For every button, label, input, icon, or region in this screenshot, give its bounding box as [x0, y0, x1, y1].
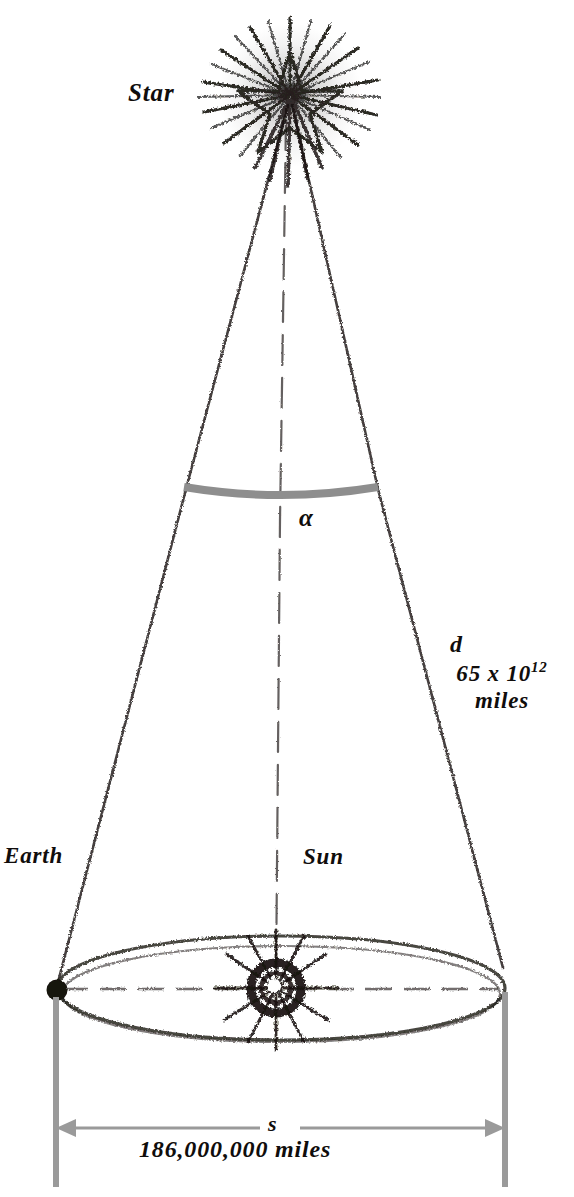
- distance-annotation: d 65 x 1012 miles: [440, 632, 564, 713]
- baseline-symbol-label: s: [268, 1112, 277, 1135]
- diagram-artwork: [0, 0, 574, 1197]
- axis-dashed-line: [276, 120, 286, 980]
- sun-label: Sun: [303, 845, 344, 869]
- sight-line-left: [57, 105, 288, 986]
- star-icon: [198, 18, 381, 186]
- baseline-value-label: 186,000,000 miles: [139, 1137, 331, 1162]
- earth-label: Earth: [4, 844, 63, 868]
- sight-line-right: [292, 105, 503, 968]
- sight-line-group: [57, 105, 503, 986]
- distance-symbol-label: d: [450, 632, 564, 657]
- distance-value-label: 65 x 1012: [440, 660, 564, 686]
- star-label: Star: [128, 80, 175, 106]
- distance-exponent: 12: [531, 659, 548, 675]
- central-axis: [276, 120, 286, 980]
- parallax-diagram: Star α Earth Sun d 65 x 1012 miles s 186…: [0, 0, 574, 1197]
- parallax-angle-label: α: [299, 505, 314, 531]
- distance-mantissa: 65 x 10: [456, 661, 531, 686]
- distance-units-label: miles: [440, 689, 564, 713]
